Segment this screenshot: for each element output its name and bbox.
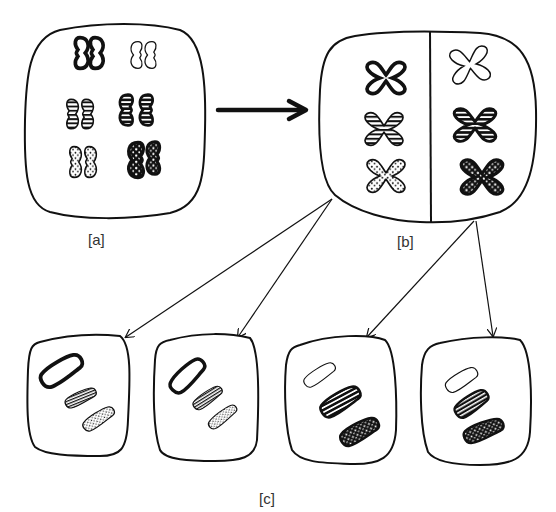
cell-b-divider [430, 31, 431, 222]
cell-a [25, 24, 205, 218]
label-c: [c] [259, 490, 275, 507]
meiosis-diagram [0, 0, 556, 512]
cell-c3 [285, 336, 396, 464]
cell-c1 [27, 335, 129, 456]
label-a: [a] [88, 231, 105, 248]
cell-c2 [154, 334, 258, 461]
arrow-a-to-b [218, 101, 306, 119]
label-b: [b] [397, 233, 414, 250]
cell-b [319, 31, 536, 222]
cell-c4 [421, 337, 531, 465]
